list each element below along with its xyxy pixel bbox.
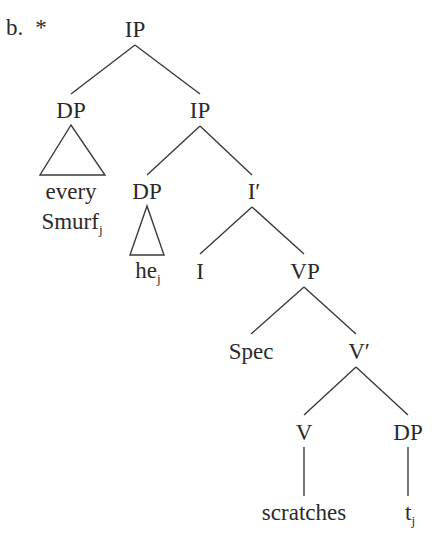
node-spec: Spec <box>229 340 274 363</box>
node-ip-inner: IP <box>190 99 210 122</box>
index-j: j <box>411 513 415 528</box>
leaf-he-word: he <box>135 258 157 283</box>
example-label: b.* <box>6 16 47 39</box>
index-j: j <box>99 222 103 237</box>
ungrammatical-star: * <box>35 15 47 40</box>
dp-quant-triangle <box>40 125 105 175</box>
edge-ip-dp-pron <box>147 126 200 175</box>
leaf-every: every <box>45 180 96 203</box>
node-ip-root: IP <box>125 18 145 41</box>
edge-ip-ip <box>135 45 200 94</box>
tree-edges <box>0 0 444 555</box>
edge-ip-dp <box>71 45 135 94</box>
edge-vp-vbar <box>304 287 356 334</box>
leaf-smurf: Smurfj <box>41 210 102 233</box>
example-letter: b. <box>6 15 23 40</box>
node-vbar: V′ <box>348 340 370 363</box>
node-dp-quant: DP <box>56 99 85 122</box>
index-j: j <box>157 271 161 286</box>
edge-vbar-dp <box>356 367 408 415</box>
leaf-trace: tj <box>405 501 415 524</box>
leaf-scratches: scratches <box>262 501 346 524</box>
edge-vp-spec <box>251 287 304 334</box>
leaf-smurf-word: Smurf <box>41 209 99 234</box>
edge-ibar-i <box>200 207 252 254</box>
leaf-he: hej <box>135 259 160 282</box>
edge-ip-ibar <box>200 126 252 175</box>
dp-pron-triangle <box>130 206 164 255</box>
edge-ibar-vp <box>252 207 304 254</box>
node-dp-pron: DP <box>132 180 161 203</box>
node-dp-obj: DP <box>393 421 422 444</box>
node-i-head: I <box>196 260 204 283</box>
node-ibar: I′ <box>248 180 261 203</box>
syntax-tree-diagram: b.* IP DP IP every Smurfj DP hej I′ I VP… <box>0 0 444 555</box>
edge-vbar-v <box>304 367 356 415</box>
node-v-head: V <box>296 421 313 444</box>
node-vp: VP <box>290 260 319 283</box>
